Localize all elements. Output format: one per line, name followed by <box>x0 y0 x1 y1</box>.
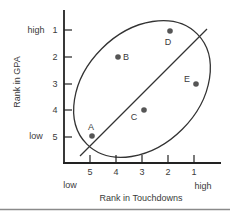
x-axis-title: Rank in Touchdowns <box>100 193 183 203</box>
svg-text:D: D <box>165 37 172 47</box>
svg-text:1: 1 <box>191 167 196 177</box>
y-ticks <box>64 30 72 137</box>
svg-text:E: E <box>184 74 190 84</box>
y-tick-labels: 1 2 3 4 5 <box>52 25 57 142</box>
y-axis-title: Rank in GPA <box>12 56 22 107</box>
y-low-label: low <box>29 131 43 141</box>
point-d: D <box>165 28 173 47</box>
point-e: E <box>184 74 199 87</box>
svg-text:4: 4 <box>113 167 118 177</box>
x-high-label: high <box>194 181 211 191</box>
trend-line <box>80 29 207 156</box>
svg-text:C: C <box>131 112 138 122</box>
enclosing-ellipse <box>47 0 230 184</box>
svg-text:3: 3 <box>52 79 57 89</box>
svg-text:A: A <box>88 122 94 132</box>
x-ticks <box>90 155 194 163</box>
point-b: B <box>115 52 129 62</box>
scatter-diagram: 1 2 3 4 5 5 4 3 2 1 high low low high Ra… <box>0 0 230 213</box>
x-tick-labels: 5 4 3 2 1 <box>87 167 196 177</box>
svg-text:5: 5 <box>87 167 92 177</box>
x-low-label: low <box>63 180 77 190</box>
svg-text:1: 1 <box>52 25 57 35</box>
point-a: A <box>88 122 95 139</box>
y-high-label: high <box>27 25 44 35</box>
svg-text:5: 5 <box>52 132 57 142</box>
svg-text:3: 3 <box>139 167 144 177</box>
point-c: C <box>131 107 147 122</box>
svg-text:2: 2 <box>52 52 57 62</box>
svg-text:2: 2 <box>165 167 170 177</box>
svg-text:B: B <box>123 52 129 62</box>
svg-text:4: 4 <box>52 105 57 115</box>
